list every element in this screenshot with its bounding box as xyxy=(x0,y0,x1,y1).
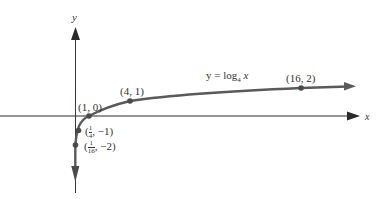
equation-var: x xyxy=(244,69,249,81)
point-label-16-2: (16, 2) xyxy=(286,73,315,84)
point-sixteenth-neg2 xyxy=(73,142,79,148)
point-1-0 xyxy=(86,113,92,119)
x-axis-arrow-icon xyxy=(347,112,360,121)
point-label-1-0: (1, 0) xyxy=(78,102,102,113)
label-rest: , −1) xyxy=(92,125,113,137)
equation-prefix: y = log xyxy=(206,69,237,81)
x-axis-label: x xyxy=(365,112,369,122)
curve-equation-label: y = log4 x xyxy=(206,70,248,84)
point-16-2 xyxy=(298,85,304,91)
label-rest: , −2) xyxy=(95,140,116,152)
y-axis-arrow-icon xyxy=(71,27,80,40)
point-label-4-1: (4, 1) xyxy=(120,86,144,97)
curve-arrow-right-icon xyxy=(344,82,356,91)
frac-den: 16 xyxy=(88,148,95,155)
point-quarter-neg1 xyxy=(76,128,82,134)
point-4-1 xyxy=(127,98,133,104)
equation-base: 4 xyxy=(237,76,241,84)
log-curve xyxy=(75,87,348,173)
curve-arrow-down-icon xyxy=(71,166,79,182)
point-label-quarter-neg1: (14, −1) xyxy=(85,125,113,140)
y-axis-label: y xyxy=(72,12,77,23)
point-label-sixteenth-neg2: (116, −2) xyxy=(84,140,116,155)
log-graph xyxy=(0,0,384,199)
fraction-sixteenth: 116 xyxy=(88,140,95,155)
